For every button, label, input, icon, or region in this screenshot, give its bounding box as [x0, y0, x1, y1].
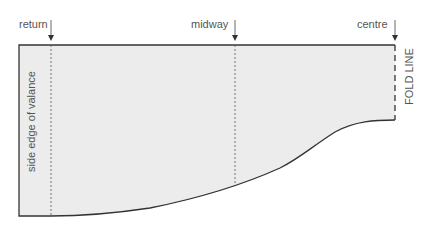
return-arrow-icon [48, 20, 54, 41]
centre-arrow-icon [392, 20, 398, 41]
midway-label: midway [191, 18, 228, 30]
fold-line-label: FOLD LINE [403, 48, 415, 105]
centre-label: centre [357, 18, 388, 30]
return-label: return [19, 18, 48, 30]
valance-pattern-diagram [0, 0, 428, 228]
side-edge-label: side edge of valance [25, 71, 37, 172]
midway-arrow-icon [232, 20, 238, 41]
